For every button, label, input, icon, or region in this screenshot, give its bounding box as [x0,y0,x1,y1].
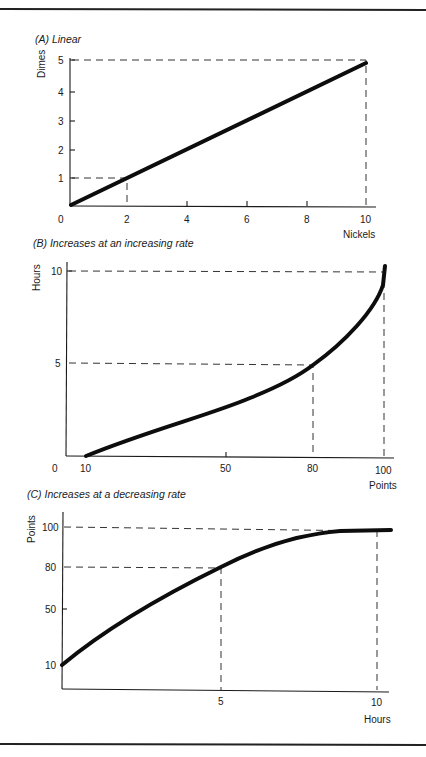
chart-b-x-axis [66,456,394,458]
chart-b-y-axis [66,262,67,456]
top-rule [0,9,426,10]
chart-a-y-ticks: 1 2 3 4 5 [58,55,75,184]
chart-a-ytick: 2 [58,145,64,156]
chart-c-curve [62,530,391,665]
chart-a-ytick: 3 [58,116,64,127]
chart-b-ylabel: Hours [31,264,42,291]
chart-b-x-ticks: 0 10 50 80 100 [52,452,392,476]
chart-a-xlabel: Nickels [343,229,375,240]
chart-b-xtick: 10 [80,463,92,474]
chart-c-ytick: 10 [45,660,57,671]
chart-b-xtick: 100 [375,465,392,476]
chart-c-ylabel: Points [26,515,37,543]
chart-a-ytick: 5 [58,55,64,66]
chart-a-xtick: 8 [304,214,310,225]
chart-b-increasing-rate: (B) Increases at an increasing rate Hour… [31,237,397,491]
chart-a-ytick: 4 [58,87,64,98]
chart-a-xtick: 6 [244,214,250,225]
chart-c-decreasing-rate: (C) Increases at a decreasing rate Point… [26,488,391,725]
chart-a-xtick: 4 [184,214,190,225]
chart-c-ytick: 50 [45,604,57,615]
chart-b-curve [86,266,385,456]
chart-a-linear: (A) Linear Dimes 1 2 3 4 5 0 2 4 6 8 [35,33,376,240]
chart-c-ytick: 100 [42,522,59,533]
chart-a-title: (A) Linear [35,33,82,45]
chart-b-xtick: 0 [52,463,58,474]
chart-b-xtick: 80 [307,463,319,474]
figure: (A) Linear Dimes 1 2 3 4 5 0 2 4 6 8 [0,0,426,757]
chart-a-ylabel: Dimes [36,50,47,78]
chart-b-ytick: 5 [55,358,61,369]
chart-b-xtick: 50 [220,463,232,474]
chart-a-xtick: 2 [124,214,130,225]
chart-b-guide-100-10 [69,271,384,456]
chart-c-title: (C) Increases at a decreasing rate [27,488,186,500]
chart-c-guide-5-80 [64,567,221,690]
chart-a-x-axis [70,206,376,207]
chart-c-xtick: 10 [371,697,383,708]
chart-b-xlabel: Points [369,480,397,491]
chart-b-ytick: 10 [51,266,63,277]
chart-c-xlabel: Hours [364,714,391,725]
chart-b-title: (B) Increases at an increasing rate [33,237,194,249]
chart-b-y-ticks: 10 5 [51,266,72,369]
chart-a-xtick: 0 [58,214,64,225]
chart-c-x-axis [62,689,389,692]
bottom-rule [0,744,426,745]
chart-a-line [71,63,366,205]
chart-a-xtick: 10 [360,214,372,225]
chart-c-ytick: 80 [45,562,57,573]
chart-b-guide-80-5 [69,363,313,456]
chart-a-x-ticks: 0 2 4 6 8 10 [58,201,372,225]
chart-c-xtick: 5 [218,696,224,707]
chart-c-x-ticks: 5 10 [218,696,383,708]
chart-a-ytick: 1 [58,173,64,184]
